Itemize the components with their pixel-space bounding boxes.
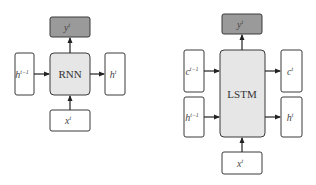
lstm-core-label: LSTM: [227, 88, 257, 100]
lstm-cell-in-node: ct−1: [184, 50, 204, 92]
lstm-output-node: yt: [222, 14, 262, 34]
rnn-core-node: RNN: [50, 53, 90, 95]
lstm-hidden-in-node: ht−1: [184, 97, 204, 137]
lstm-diagram: yt LSTM ct−1 ht−1 ct ht xt: [184, 14, 302, 174]
rnn-core-label: RNN: [58, 68, 81, 80]
lstm-hidden-out-node: ht: [281, 97, 302, 137]
rnn-hidden-in-node: ht−1: [15, 53, 34, 95]
diagram-canvas: yt RNN ht−1 ht xt yt: [0, 0, 316, 185]
rnn-input-node: xt: [50, 110, 90, 131]
lstm-cell-out-node: ct: [281, 50, 302, 92]
lstm-input-node: xt: [222, 152, 262, 174]
rnn-output-node: yt: [50, 17, 90, 37]
rnn-hidden-out-node: ht: [105, 53, 125, 95]
rnn-diagram: yt RNN ht−1 ht xt: [15, 17, 125, 131]
lstm-core-node: LSTM: [220, 50, 265, 137]
